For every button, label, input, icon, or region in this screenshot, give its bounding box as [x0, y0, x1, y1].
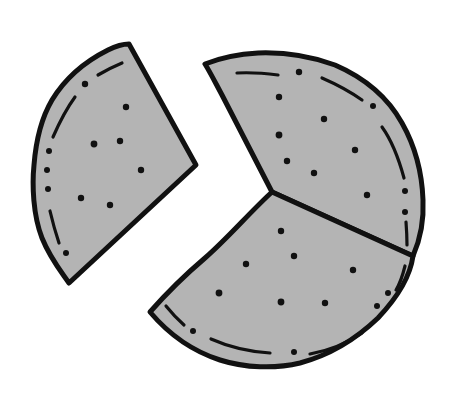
detached-slice [33, 44, 196, 283]
pie-illustration: Pie with one slice removed [0, 0, 457, 396]
